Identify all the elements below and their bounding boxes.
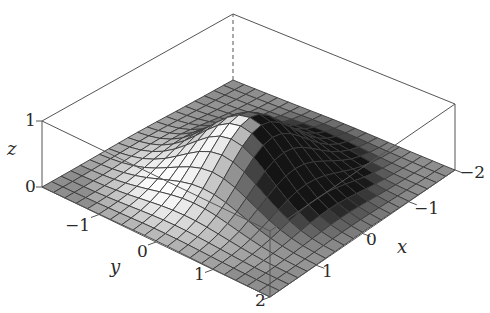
x-tick-0: 0: [366, 231, 377, 248]
z-tick-1: 1: [25, 112, 36, 129]
y-tick-minus1: −1: [65, 217, 90, 234]
x-tick-minus1: −1: [414, 200, 439, 217]
y-tick-1: 1: [194, 266, 205, 283]
y-tick-0: 0: [137, 243, 148, 260]
x-tick-1: 1: [322, 263, 333, 280]
z-tick-0: 0: [25, 178, 36, 195]
surface-mesh: [42, 80, 455, 297]
x-tick-minus2: −2: [460, 164, 485, 181]
z-axis-label: z: [7, 140, 16, 158]
surface-plot: [0, 0, 490, 313]
x-axis-label: x: [397, 238, 407, 256]
y-tick-2: 2: [255, 292, 266, 309]
y-axis-label: y: [110, 258, 120, 276]
